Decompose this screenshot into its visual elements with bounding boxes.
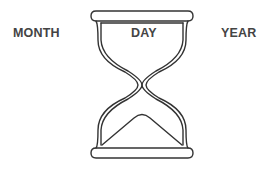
month-label: MONTH — [13, 26, 60, 40]
year-label: YEAR — [221, 26, 257, 40]
day-label: DAY — [131, 26, 157, 40]
